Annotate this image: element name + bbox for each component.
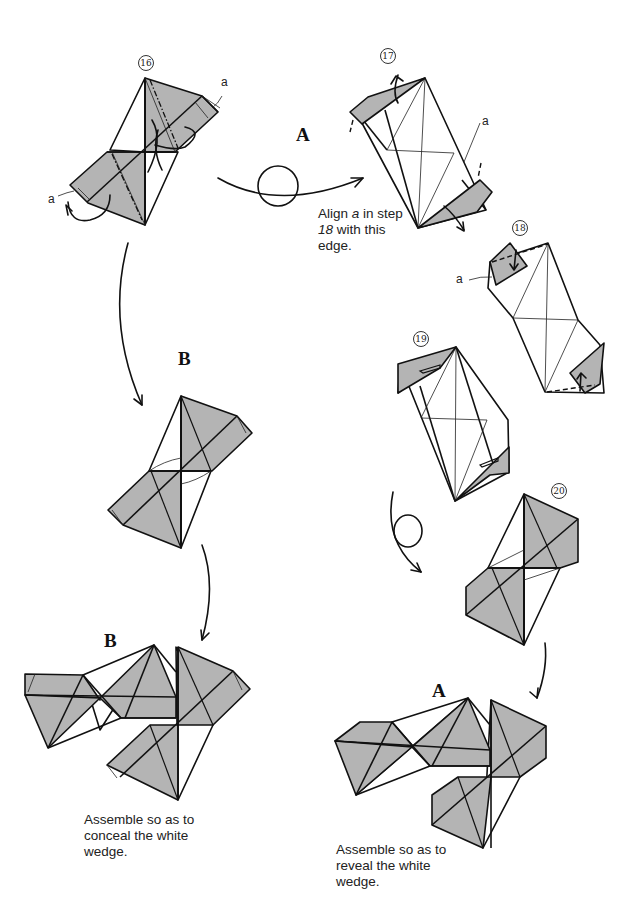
step-number-16: 16 (138, 55, 154, 71)
step-19-figure (398, 347, 509, 501)
step-18-figure (469, 243, 604, 393)
step-number-17: 17 (380, 48, 396, 64)
origami-diagram-canvas (0, 0, 636, 897)
step-20-figure (466, 494, 578, 645)
step-number-19: 19 (413, 331, 429, 347)
point-label-a: a (48, 192, 55, 206)
turn-over-arrow (391, 492, 422, 572)
section-label-a: A (296, 124, 310, 146)
turn-over-arrow (218, 166, 363, 206)
step-number-18: 18 (512, 220, 528, 236)
section-label-a: A (432, 680, 446, 702)
model-b-figure (108, 396, 252, 548)
caption-conceal: Assemble so as to conceal the white wedg… (84, 812, 244, 860)
step-arrow (530, 688, 538, 698)
point-label-a: a (456, 272, 463, 286)
step-number-20: 20 (551, 483, 567, 499)
step-arrow (202, 545, 210, 640)
align-note: Align a in step 18 with this edge. (318, 206, 438, 254)
point-label-a: a (221, 75, 228, 89)
step-arrow (120, 243, 142, 405)
step-arrow (201, 630, 209, 640)
section-label-b: B (178, 348, 191, 370)
label-a-pointer (58, 191, 74, 196)
caption-reveal: Assemble so as to reveal the white wedge… (336, 842, 496, 890)
section-label-b: B (104, 630, 117, 652)
step-16-figure (66, 78, 220, 225)
point-label-a: a (482, 114, 489, 128)
assembly-b-figure (25, 645, 250, 800)
assembly-a-figure (335, 698, 546, 848)
